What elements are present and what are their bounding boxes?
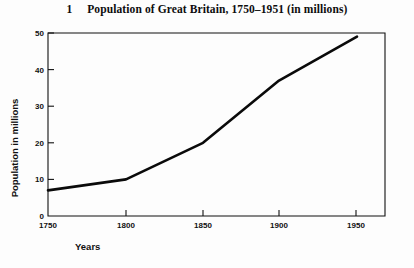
plot-frame xyxy=(48,33,385,216)
population-line-series xyxy=(48,37,357,191)
x-tick-label-1750: 1750 xyxy=(39,221,57,230)
x-tick-label-1800: 1800 xyxy=(117,221,135,230)
x-tick-label-1900: 1900 xyxy=(270,221,288,230)
x-axis-ticks xyxy=(126,210,356,216)
figure-container: 1 Population of Great Britain, 1750–1951… xyxy=(0,0,414,268)
y-tick-label-50: 50 xyxy=(35,29,44,38)
chart-plot: 50 40 30 20 10 0 1750 1800 1850 1900 195… xyxy=(0,0,414,268)
x-tick-label-1950: 1950 xyxy=(347,221,365,230)
y-tick-label-0: 0 xyxy=(40,212,45,221)
y-tick-label-20: 20 xyxy=(35,139,44,148)
x-axis-tick-labels: 1750 1800 1850 1900 1950 xyxy=(39,221,365,230)
y-tick-label-40: 40 xyxy=(35,66,44,75)
y-axis-ticks xyxy=(48,33,54,179)
y-axis-tick-labels: 50 40 30 20 10 0 xyxy=(35,29,44,221)
y-axis-title: Population in millions xyxy=(9,99,20,198)
x-axis-title: Years xyxy=(75,241,100,252)
x-tick-label-1850: 1850 xyxy=(194,221,212,230)
y-tick-label-30: 30 xyxy=(35,102,44,111)
y-tick-label-10: 10 xyxy=(35,175,44,184)
